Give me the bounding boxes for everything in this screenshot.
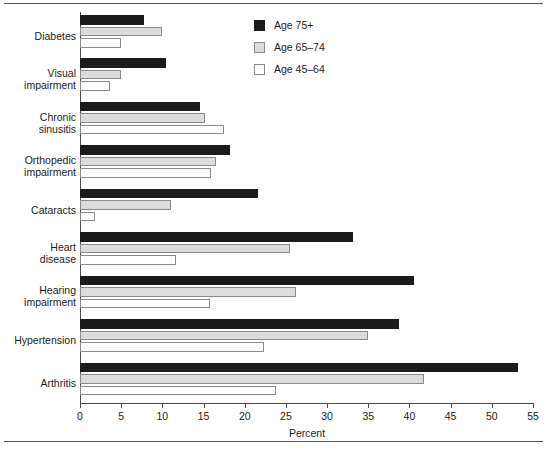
bar-group bbox=[80, 273, 533, 316]
x-axis-title: Percent bbox=[80, 427, 534, 439]
y-axis-label-line: disease bbox=[2, 253, 76, 265]
bar bbox=[80, 70, 121, 80]
legend-swatch-icon bbox=[254, 64, 265, 75]
x-tick bbox=[162, 403, 163, 408]
y-axis-label: Heartdisease bbox=[2, 241, 76, 265]
y-axis-label: Cataracts bbox=[2, 204, 76, 216]
bar-group bbox=[80, 229, 533, 272]
y-axis-label: Chronicsinusitis bbox=[2, 111, 76, 135]
y-axis-label-line: impairment bbox=[2, 166, 76, 178]
y-axis-label-line: Arthritis bbox=[2, 377, 76, 389]
x-tick bbox=[286, 403, 287, 408]
x-tick bbox=[204, 403, 205, 408]
bar bbox=[80, 255, 176, 265]
x-tick-label: 20 bbox=[230, 410, 260, 422]
y-axis-label-line: Visual bbox=[2, 67, 76, 79]
y-axis-label-line: sinusitis bbox=[2, 123, 76, 135]
chart-legend: Age 75+Age 65–74Age 45–64 bbox=[254, 14, 325, 80]
legend-label: Age 75+ bbox=[274, 19, 313, 31]
bar-group bbox=[80, 360, 533, 403]
x-tick-label: 50 bbox=[477, 410, 507, 422]
figure-top-rule bbox=[4, 3, 543, 4]
bar bbox=[80, 15, 144, 25]
bar bbox=[80, 287, 296, 297]
bar bbox=[80, 145, 230, 155]
x-tick bbox=[80, 403, 81, 408]
x-tick bbox=[245, 403, 246, 408]
x-tick-label: 35 bbox=[353, 410, 383, 422]
x-tick bbox=[409, 403, 410, 408]
y-axis-label-line: Chronic bbox=[2, 111, 76, 123]
bar-group bbox=[80, 316, 533, 359]
bar bbox=[80, 342, 264, 352]
y-axis-label: Orthopedicimpairment bbox=[2, 154, 76, 178]
bar bbox=[80, 319, 399, 329]
x-tick bbox=[451, 403, 452, 408]
y-axis-label: Diabetes bbox=[2, 30, 76, 42]
bar bbox=[80, 27, 162, 37]
bar bbox=[80, 212, 95, 222]
y-axis-label-line: impairment bbox=[2, 296, 76, 308]
x-tick bbox=[533, 403, 534, 408]
y-axis-label-line: Hypertension bbox=[2, 334, 76, 346]
x-tick-label: 30 bbox=[312, 410, 342, 422]
x-tick bbox=[327, 403, 328, 408]
bar bbox=[80, 386, 276, 396]
bar bbox=[80, 363, 518, 373]
bar bbox=[80, 38, 121, 48]
legend-item: Age 75+ bbox=[254, 14, 325, 36]
legend-label: Age 65–74 bbox=[274, 41, 325, 53]
y-axis-label-line: impairment bbox=[2, 79, 76, 91]
bar bbox=[80, 113, 205, 123]
bar-group bbox=[80, 99, 533, 142]
bar bbox=[80, 200, 171, 210]
bar bbox=[80, 81, 110, 91]
y-axis-label-line: Diabetes bbox=[2, 30, 76, 42]
bar bbox=[80, 102, 200, 112]
legend-item: Age 45–64 bbox=[254, 58, 325, 80]
legend-label: Age 45–64 bbox=[274, 63, 325, 75]
x-tick bbox=[368, 403, 369, 408]
bar bbox=[80, 331, 368, 341]
legend-swatch-icon bbox=[254, 42, 265, 53]
y-axis-label: Visualimpairment bbox=[2, 67, 76, 91]
figure-bottom-rule bbox=[4, 441, 543, 442]
y-axis-label-line: Cataracts bbox=[2, 204, 76, 216]
x-tick-label: 10 bbox=[147, 410, 177, 422]
y-axis-category-labels: DiabetesVisualimpairmentChronicsinusitis… bbox=[0, 12, 76, 403]
y-axis-label-line: Heart bbox=[2, 241, 76, 253]
legend-swatch-icon bbox=[254, 20, 265, 31]
bar bbox=[80, 157, 216, 167]
bar bbox=[80, 232, 353, 242]
bar bbox=[80, 374, 424, 384]
legend-item: Age 65–74 bbox=[254, 36, 325, 58]
bar bbox=[80, 299, 210, 309]
bar bbox=[80, 189, 258, 199]
x-tick bbox=[492, 403, 493, 408]
y-axis-label: Hearingimpairment bbox=[2, 284, 76, 308]
bar bbox=[80, 244, 290, 254]
x-tick-label: 0 bbox=[65, 410, 95, 422]
y-axis-label-line: Hearing bbox=[2, 284, 76, 296]
x-tick-label: 5 bbox=[106, 410, 136, 422]
bar bbox=[80, 125, 224, 135]
figure: DiabetesVisualimpairmentChronicsinusitis… bbox=[0, 0, 547, 454]
x-tick-label: 40 bbox=[394, 410, 424, 422]
y-axis-label: Arthritis bbox=[2, 377, 76, 389]
bar bbox=[80, 58, 166, 68]
x-tick-label: 45 bbox=[436, 410, 466, 422]
bar-group bbox=[80, 142, 533, 185]
x-tick-label: 25 bbox=[271, 410, 301, 422]
y-axis-label-line: Orthopedic bbox=[2, 154, 76, 166]
bar bbox=[80, 168, 211, 178]
y-axis-label: Hypertension bbox=[2, 334, 76, 346]
bar bbox=[80, 276, 414, 286]
x-tick-label: 15 bbox=[189, 410, 219, 422]
bar-group bbox=[80, 186, 533, 229]
x-axis-line bbox=[80, 403, 534, 404]
x-tick-label: 55 bbox=[518, 410, 547, 422]
x-tick bbox=[121, 403, 122, 408]
